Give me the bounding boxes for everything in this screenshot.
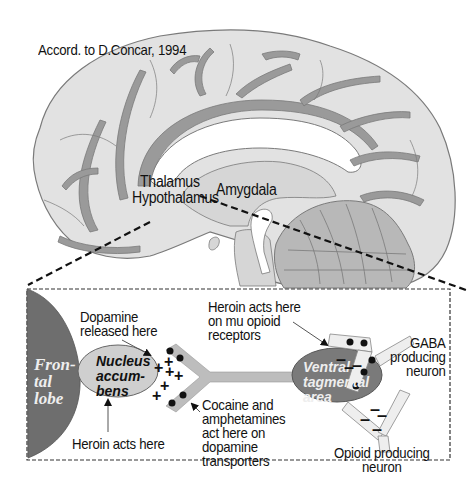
- arrow-cocaine: [192, 404, 200, 412]
- brain-reward-pathway-diagram: Accord. to D.Concar, 1994 Thalamus Hypot…: [0, 0, 470, 487]
- arrow-heroin-mu: [293, 322, 327, 345]
- arrow-dopamine-released: [122, 340, 150, 355]
- annotation-arrows: [0, 0, 470, 487]
